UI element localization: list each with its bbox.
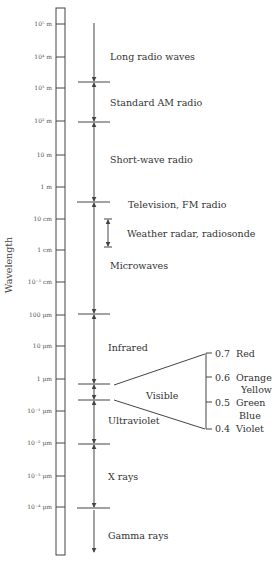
band-label-shortwave: Short-wave radio [110, 154, 193, 165]
tick-label: 10⁻¹ cm [28, 278, 52, 285]
band-label-microwaves: Microwaves [110, 260, 168, 271]
tick-label: 10⁻² μm [27, 439, 52, 447]
band-labels: Long radio waves Standard AM radio Short… [108, 51, 256, 541]
visible-value-06: 0.6 [215, 372, 230, 383]
visible-color-blue: Blue [239, 410, 261, 421]
visible-value-04: 0.4 [215, 423, 230, 434]
band-label-long-radio: Long radio waves [110, 51, 195, 62]
tick-label: 10⁻³ μm [27, 472, 52, 480]
tick-label: 10⁵ m [34, 20, 52, 27]
tick-label: 100 μm [29, 311, 52, 319]
visible-color-violet: Violet [235, 423, 264, 434]
band-label-tv-fm: Television, FM radio [128, 199, 227, 210]
tick-label: 10⁻¹ μm [27, 407, 52, 415]
em-spectrum-diagram: Wavelength 10⁵ m 10⁴ m 10³ m 10² m 10 m … [0, 0, 274, 563]
axis-title: Wavelength [3, 237, 14, 293]
tick-label: 10 cm [33, 215, 52, 222]
band-label-am-radio: Standard AM radio [110, 97, 202, 108]
visible-color-orange: Orange [236, 372, 272, 383]
tick-label: 10⁻⁴ μm [27, 503, 52, 511]
visible-color-yellow: Yellow [240, 384, 272, 395]
tick-label: 1 cm [37, 246, 52, 253]
visible-color-green: Green [236, 397, 266, 408]
visible-value-07: 0.7 [215, 348, 230, 359]
visible-color-red: Red [236, 348, 255, 359]
tick-label: 10 m [37, 151, 53, 158]
band-label-ultraviolet: Ultraviolet [108, 415, 160, 426]
tick-label: 1 μm [37, 375, 53, 383]
tick-label: 10⁴ m [34, 53, 52, 60]
band-label-visible: Visible [145, 390, 179, 401]
band-label-weather-radar: Weather radar, radiosonde [127, 228, 256, 239]
band-label-xrays: X rays [108, 471, 138, 482]
band-label-infrared: Infrared [108, 342, 148, 353]
visible-value-05: 0.5 [215, 397, 230, 408]
tick-label: 10 μm [33, 342, 52, 350]
tick-label: 10³ m [34, 84, 52, 91]
tick-label: 1 m [41, 183, 53, 190]
band-label-gamma: Gamma rays [108, 530, 169, 541]
tick-label: 10² m [34, 117, 52, 124]
